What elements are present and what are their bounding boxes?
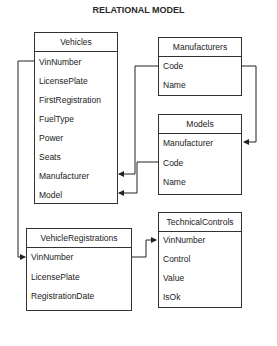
- entity-technical-controls: TechnicalControls VinNumber Control Valu…: [158, 212, 242, 308]
- link-manufacturers-vehicles: [119, 66, 158, 174]
- entity-models: Models Manufacturer Code Name: [158, 114, 242, 195]
- field-manufacturer: Manufacturer: [39, 171, 89, 181]
- field-registrationdate: RegistrationDate: [31, 291, 94, 301]
- field-code: Code: [163, 158, 183, 168]
- entity-models-title: Models: [159, 115, 241, 134]
- entity-technical-controls-title: TechnicalControls: [159, 213, 241, 232]
- field-value: Value: [163, 273, 184, 283]
- field-power: Power: [39, 133, 63, 143]
- field-licenseplate: LicensePlate: [31, 272, 80, 282]
- field-seats: Seats: [39, 152, 61, 162]
- field-isok: IsOk: [163, 292, 180, 302]
- field-vinnumber: VinNumber: [39, 57, 81, 67]
- field-code: Code: [163, 61, 183, 71]
- field-licenseplate: LicensePlate: [39, 76, 88, 86]
- field-name: Name: [163, 177, 186, 187]
- field-fueltype: FuelType: [39, 114, 74, 124]
- field-manufacturer: Manufacturer: [163, 138, 213, 148]
- field-vinnumber: VinNumber: [31, 252, 73, 262]
- entity-manufacturers: Manufacturers Code Name: [158, 37, 242, 96]
- field-firstregistration: FirstRegistration: [39, 95, 101, 105]
- entity-vehicle-registrations: VehicleRegistrations VinNumber LicensePl…: [26, 228, 132, 311]
- link-manufacturers-models: [242, 66, 256, 142]
- field-control: Control: [163, 254, 190, 264]
- link-models-vehicles: [119, 162, 158, 193]
- field-vinnumber: VinNumber: [163, 235, 205, 245]
- entity-manufacturers-title: Manufacturers: [159, 38, 241, 57]
- link-registrations-technicalcontrols: [131, 240, 156, 257]
- field-name: Name: [163, 80, 186, 90]
- field-model: Model: [39, 190, 62, 200]
- entity-vehicles-title: Vehicles: [35, 33, 117, 52]
- entity-vehicle-registrations-title: VehicleRegistrations: [27, 229, 131, 248]
- entity-vehicles: Vehicles VinNumber LicensePlate FirstReg…: [34, 32, 118, 204]
